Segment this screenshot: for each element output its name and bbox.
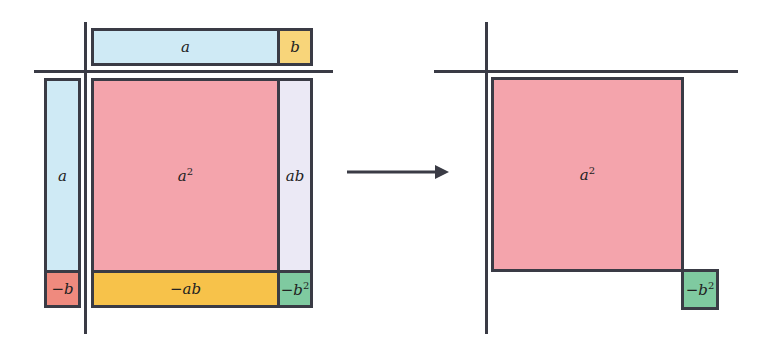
- cell-neg-ab: −ab: [91, 270, 280, 308]
- top-bar-a: a: [91, 28, 280, 66]
- result-a-squared: a2: [491, 77, 684, 272]
- top-bar-b: b: [277, 28, 313, 66]
- right-vertical-axis: [485, 22, 488, 334]
- a-squared-label: a2: [178, 166, 193, 185]
- right-arrow-icon: [345, 162, 453, 182]
- left-bar-neg-b-label: −b: [51, 280, 73, 298]
- top-bar-a-label: a: [181, 38, 190, 56]
- left-horizontal-axis: [34, 70, 333, 73]
- left-vertical-axis: [84, 22, 87, 334]
- result-neg-b-squared: −b2: [681, 269, 719, 310]
- left-bar-a-label: a: [58, 167, 67, 185]
- neg-b-squared-label: −b2: [281, 280, 310, 299]
- result-neg-b-squared-label: −b2: [686, 280, 715, 299]
- left-bar-a: a: [44, 78, 81, 273]
- cell-neg-b-squared: −b2: [277, 270, 313, 308]
- cell-a-squared: a2: [91, 78, 280, 273]
- cell-ab: ab: [277, 78, 313, 273]
- result-a-squared-label: a2: [580, 165, 595, 184]
- neg-ab-label: −ab: [170, 280, 201, 298]
- left-bar-neg-b: −b: [44, 270, 81, 308]
- top-bar-b-label: b: [290, 38, 300, 56]
- ab-label: ab: [286, 167, 305, 185]
- right-horizontal-axis: [434, 70, 738, 73]
